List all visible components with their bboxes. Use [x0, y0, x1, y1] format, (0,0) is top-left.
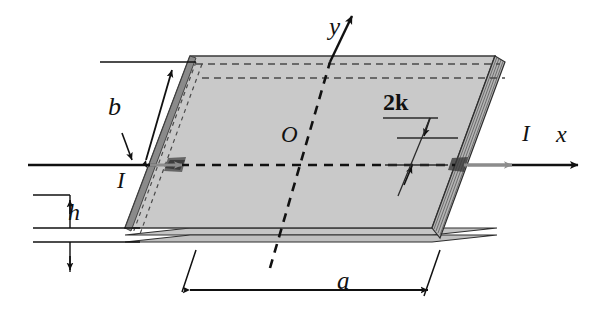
label-current-right: I: [522, 122, 530, 145]
label-h: h: [68, 200, 80, 224]
plate-diagram-svg: [0, 0, 590, 323]
label-axis-y: y: [329, 14, 340, 39]
label-axis-x: x: [556, 122, 567, 146]
dimension-h: [33, 195, 140, 272]
label-b: b: [108, 94, 121, 120]
label-origin: O: [281, 123, 298, 146]
dimension-a: [182, 250, 440, 296]
label-2k: 2k: [383, 90, 408, 114]
label-current-left: I: [117, 169, 125, 192]
figure-container: b h a O y x I I 2k: [0, 0, 590, 323]
label-a: a: [337, 268, 350, 293]
